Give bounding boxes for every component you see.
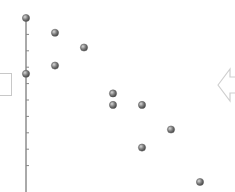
data-point	[167, 126, 174, 133]
data-point	[196, 178, 203, 185]
data-point	[109, 101, 116, 108]
data-point	[22, 14, 29, 21]
data-point	[51, 29, 58, 36]
data-point	[22, 70, 29, 77]
scatter-chart	[0, 0, 235, 192]
axes	[26, 16, 29, 192]
data-point	[138, 101, 145, 108]
arrow-left-icon[interactable]	[216, 66, 235, 104]
data-point	[51, 62, 58, 69]
data-points	[22, 14, 203, 185]
data-point	[80, 44, 87, 51]
side-panel-box[interactable]	[0, 73, 12, 96]
data-point	[109, 90, 116, 97]
data-point	[138, 144, 145, 151]
